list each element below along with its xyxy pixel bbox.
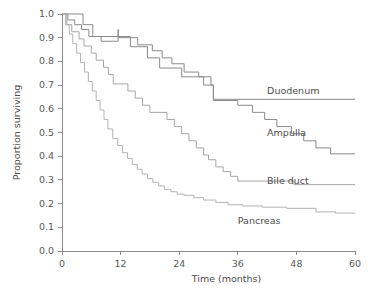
y-tick-label: 0.8 [39,55,54,66]
chart-canvas: 0.00.10.20.30.40.50.60.70.80.91.0 012243… [0,0,380,304]
series-label-bile-duct: Bile duct [267,175,309,186]
survival-curve-pancreas [62,14,355,213]
x-tick-label: 60 [349,258,361,269]
y-tick-label: 0.2 [39,198,54,209]
y-axis-ticks: 0.00.10.20.30.40.50.60.70.80.91.0 [39,8,62,256]
series-label-ampulla: Ampulla [267,127,306,138]
x-tick-label: 36 [232,258,244,269]
y-tick-label: 0.1 [39,221,54,232]
y-tick-label: 0.5 [39,127,54,138]
y-tick-label: 0.4 [39,150,54,161]
survival-curves [62,14,355,213]
y-axis-title: Proportion surviving [11,85,22,181]
x-tick-label: 12 [115,258,127,269]
y-tick-label: 0.7 [39,79,54,90]
y-tick-label: 1.0 [39,8,54,19]
y-tick-label: 0.9 [39,32,54,43]
x-tick-label: 0 [59,258,65,269]
y-tick-label: 0.3 [39,174,54,185]
x-tick-label: 48 [290,258,302,269]
series-label-pancreas: Pancreas [238,215,281,226]
series-label-duodenum: Duodenum [267,85,319,96]
x-axis-title: Time (months) [191,273,261,284]
y-tick-label: 0.6 [39,103,54,114]
survival-chart: 0.00.10.20.30.40.50.60.70.80.91.0 012243… [0,0,380,304]
y-tick-label: 0.0 [39,245,54,256]
x-axis-ticks: 01224364860 [59,251,361,269]
x-tick-label: 24 [173,258,185,269]
